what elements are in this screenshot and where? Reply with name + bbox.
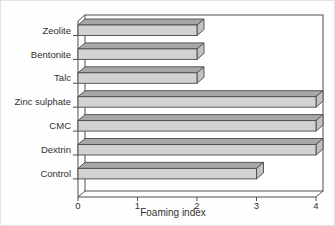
category-label-zinc-sulphate: Zinc sulphate xyxy=(14,96,71,107)
category-label-talc: Talc xyxy=(54,72,71,83)
bar-top-face xyxy=(78,19,204,25)
bar-front-face xyxy=(78,25,197,36)
bar-front-face xyxy=(78,121,316,132)
floor-left-corner-edge xyxy=(78,191,85,197)
foaming-index-chart-figure: ZeoliteBentoniteTalcZinc sulphateCMCDext… xyxy=(0,0,335,226)
bar-top-face xyxy=(78,67,204,73)
bar-talc xyxy=(78,67,204,84)
bar-bentonite xyxy=(78,43,204,60)
bar-control xyxy=(78,162,264,179)
bar-chart-canvas: ZeoliteBentoniteTalcZinc sulphateCMCDext… xyxy=(1,1,335,226)
bar-dextrin xyxy=(78,139,323,156)
bar-top-face xyxy=(78,115,323,121)
category-label-cmc: CMC xyxy=(49,120,71,131)
bar-front-face xyxy=(78,73,197,84)
bar-zeolite xyxy=(78,19,204,36)
bar-front-face xyxy=(78,168,257,179)
floor-front-edge xyxy=(78,191,323,197)
bar-top-face xyxy=(78,162,264,168)
category-label-zeolite: Zeolite xyxy=(42,25,71,36)
bar-front-face xyxy=(78,145,316,156)
x-axis-title: Foaming index xyxy=(140,207,206,218)
bar-top-face xyxy=(78,91,323,97)
x-axis-tick-label-0: 0 xyxy=(75,200,80,211)
bar-top-face xyxy=(78,139,323,145)
bar-top-face xyxy=(78,43,204,49)
x-axis-tick-label-4: 4 xyxy=(313,200,318,211)
bar-cmc xyxy=(78,115,323,132)
category-label-control: Control xyxy=(40,168,71,179)
x-axis-tick-label-3: 3 xyxy=(254,200,259,211)
bar-front-face xyxy=(78,97,316,108)
bar-zinc-sulphate xyxy=(78,91,323,108)
bar-front-face xyxy=(78,49,197,60)
category-label-bentonite: Bentonite xyxy=(31,49,71,60)
category-label-dextrin: Dextrin xyxy=(41,144,71,155)
